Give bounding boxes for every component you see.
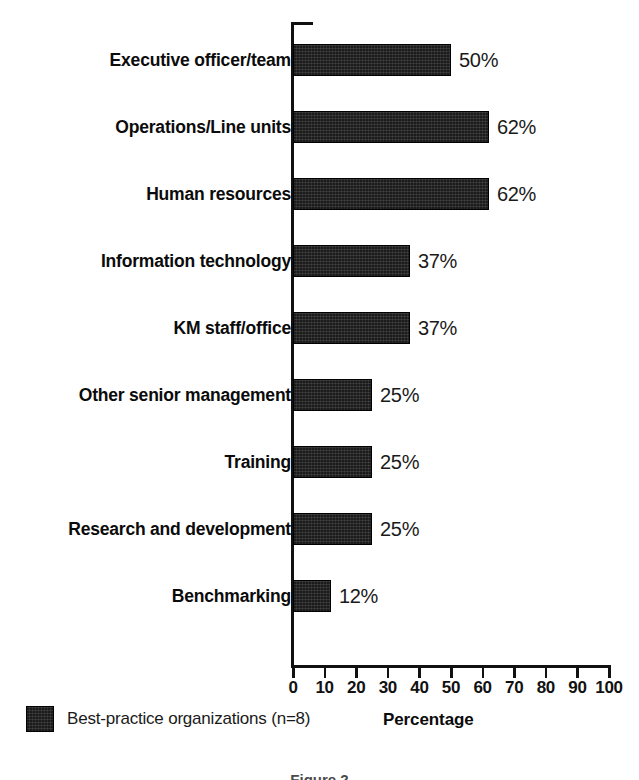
bar-value-label: 37% — [418, 312, 457, 344]
x-axis-tick-label: 10 — [315, 678, 333, 698]
figure-caption-fragment: Figure 2 — [0, 768, 639, 780]
legend-label: Best-practice organizations (n=8) — [67, 709, 310, 729]
x-axis-tick-label: 90 — [568, 678, 586, 698]
bar-row: Human resources62% — [0, 178, 639, 210]
x-axis-tick-label: 30 — [379, 678, 397, 698]
bar — [293, 580, 331, 612]
category-label: Human resources — [146, 178, 291, 210]
bar-row: Other senior management25% — [0, 379, 639, 411]
bar-value-label: 50% — [459, 44, 498, 76]
plot-area: Executive officer/team50%Operations/Line… — [0, 0, 639, 660]
bar-value-label: 62% — [497, 111, 536, 143]
category-label: Research and development — [68, 513, 291, 545]
category-label: Operations/Line units — [115, 111, 291, 143]
bar-value-label: 25% — [380, 379, 419, 411]
bar-value-label: 25% — [380, 513, 419, 545]
x-axis-tick-label: 0 — [288, 678, 297, 698]
x-axis-tick — [576, 665, 579, 678]
x-axis-tick-label: 70 — [505, 678, 523, 698]
bar-row: Operations/Line units62% — [0, 111, 639, 143]
x-axis-tick-label: 20 — [347, 678, 365, 698]
bar — [293, 178, 489, 210]
x-axis-tick — [387, 665, 390, 678]
category-label: Other senior management — [79, 379, 291, 411]
bar — [293, 446, 372, 478]
bar-value-label: 12% — [339, 580, 378, 612]
legend-swatch-icon — [26, 706, 54, 732]
x-axis-tick — [324, 665, 327, 678]
category-label: Benchmarking — [172, 580, 291, 612]
x-axis-tick — [355, 665, 358, 678]
bar-row: Executive officer/team50% — [0, 44, 639, 76]
bar-value-label: 62% — [497, 178, 536, 210]
x-axis-tick — [513, 665, 516, 678]
x-axis-tick — [482, 665, 485, 678]
x-axis-tick-label: 50 — [442, 678, 460, 698]
bar — [293, 245, 410, 277]
x-axis-tick-label: 40 — [410, 678, 428, 698]
bar — [293, 44, 451, 76]
x-axis-title: Percentage — [383, 710, 474, 730]
bar-row: Training25% — [0, 446, 639, 478]
x-axis-tick-label: 60 — [473, 678, 491, 698]
bar — [293, 312, 410, 344]
y-axis-top-cap — [291, 22, 313, 25]
bar — [293, 513, 372, 545]
x-axis-tick-label: 80 — [537, 678, 555, 698]
bar-row: Benchmarking12% — [0, 580, 639, 612]
bar-value-label: 37% — [418, 245, 457, 277]
bar-row: Information technology37% — [0, 245, 639, 277]
bar-row: KM staff/office37% — [0, 312, 639, 344]
x-axis-tick — [418, 665, 421, 678]
bar — [293, 379, 372, 411]
x-axis-tick — [292, 665, 295, 678]
bar — [293, 111, 489, 143]
x-axis-tick — [545, 665, 548, 678]
category-label: KM staff/office — [173, 312, 291, 344]
bar-row: Research and development25% — [0, 513, 639, 545]
x-axis-tick — [450, 665, 453, 678]
bar-chart: Executive officer/team50%Operations/Line… — [0, 0, 639, 780]
x-axis-tick — [608, 665, 611, 678]
x-axis-tick-label: 100 — [595, 678, 622, 698]
category-label: Training — [225, 446, 291, 478]
bar-value-label: 25% — [380, 446, 419, 478]
category-label: Information technology — [101, 245, 291, 277]
category-label: Executive officer/team — [110, 44, 291, 76]
legend: Best-practice organizations (n=8) — [26, 706, 310, 732]
